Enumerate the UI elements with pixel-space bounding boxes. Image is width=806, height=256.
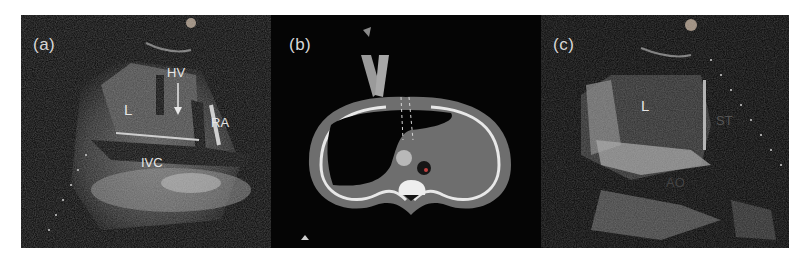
label-st: ST	[716, 113, 733, 128]
figure-strip: (a) L HV RA IVC	[21, 15, 789, 248]
label-hepatic-vein: HV	[167, 65, 185, 80]
label-liver-a: L	[124, 101, 132, 118]
panel-label-c: (c)	[553, 35, 574, 55]
cross-section-diagram	[271, 15, 541, 248]
panel-label-b: (b)	[289, 35, 311, 55]
label-ao: AO	[666, 175, 685, 190]
panel-a: (a) L HV RA IVC	[21, 15, 271, 248]
label-liver-c: L	[641, 97, 649, 114]
ultrasound-image-c	[541, 15, 789, 248]
label-right-atrium: RA	[211, 115, 229, 130]
panel-label-a: (a)	[33, 35, 55, 55]
panel-c: (c) L ST AO	[541, 15, 789, 248]
panel-b: (b)	[271, 15, 541, 248]
ultrasound-image-a	[21, 15, 271, 248]
label-ivc: IVC	[141, 155, 163, 170]
